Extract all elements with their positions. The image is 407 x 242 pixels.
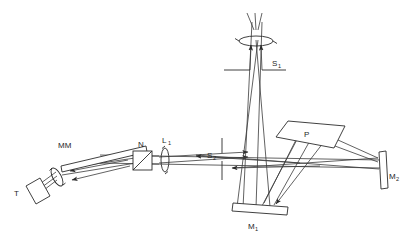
ray-m1-up-c (237, 40, 258, 207)
svg-text:2: 2 (213, 155, 216, 161)
component-lens-L1[interactable] (161, 146, 169, 174)
ray-m1-up-d (256, 40, 270, 207)
component-beamsplitter-N[interactable] (133, 151, 152, 170)
svg-text:M: M (248, 222, 255, 231)
exit-lens-cap-left (235, 39, 239, 42)
label-slit-S2: S 2 (207, 151, 216, 161)
ray-up-arrow-b (261, 45, 262, 70)
ray-bundle-m1-vertical (237, 13, 270, 208)
ray-mm-to-lens-lower (72, 166, 130, 180)
svg-text:S: S (272, 59, 278, 68)
svg-text:L: L (162, 136, 167, 145)
lens-L1-body[interactable] (161, 148, 169, 172)
mirror-M1-body[interactable] (232, 203, 288, 215)
component-mirror-M2[interactable] (379, 151, 388, 189)
prism-body[interactable] (276, 121, 345, 148)
ray-exit-a (247, 13, 254, 30)
ray-up-arrow-a (250, 45, 251, 70)
diagram-canvas: T MM N L 1 (0, 0, 407, 242)
component-prism-P[interactable] (276, 121, 345, 148)
label-slit-S1: S 1 (272, 59, 281, 69)
label-target-T: T (14, 189, 19, 198)
component-target-T[interactable] (26, 178, 50, 204)
exit-lens-cap-right (273, 41, 277, 44)
mirror-M2-body[interactable] (379, 151, 388, 189)
optical-setup-diagram: T MM N L 1 (0, 0, 407, 242)
label-lens-L1: L 1 (162, 136, 171, 146)
label-mirror-M2: M 2 (389, 172, 399, 182)
svg-text:1: 1 (168, 140, 171, 146)
label-multilayer-mirror: MM (58, 141, 72, 150)
target-plate[interactable] (26, 178, 50, 204)
svg-text:S: S (207, 151, 213, 160)
svg-text:2: 2 (396, 176, 399, 182)
component-mirror-M1[interactable] (232, 203, 288, 215)
svg-text:1: 1 (278, 63, 281, 69)
label-prism-P: P (304, 130, 310, 139)
ray-exit-c (255, 13, 256, 30)
svg-text:M: M (389, 172, 396, 181)
label-mirror-M1: M 1 (248, 222, 258, 232)
label-beamsplitter-N: N (138, 140, 144, 149)
ray-exit-b (258, 13, 262, 30)
svg-text:1: 1 (255, 226, 258, 232)
